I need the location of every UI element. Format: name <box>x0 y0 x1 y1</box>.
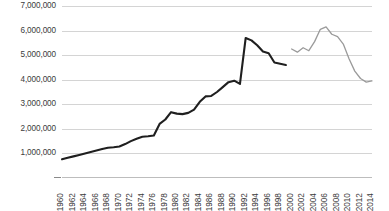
x-tick-label: 2008 <box>333 193 341 211</box>
x-tick-label: 1976 <box>149 193 157 211</box>
y-tick-label: 6,000,000 <box>20 26 56 34</box>
x-tick-label: 2004 <box>310 193 318 211</box>
y-axis: 1,000,0002,000,0003,000,0004,000,0005,00… <box>0 0 62 211</box>
x-tick-label: 1990 <box>229 193 237 211</box>
x-tick-label: 1964 <box>80 193 88 211</box>
x-tick-label: 1980 <box>172 193 180 211</box>
x-tick-label: 2012 <box>356 193 364 211</box>
x-tick-label: 1992 <box>241 193 249 211</box>
line-chart: 1,000,0002,000,0003,000,0004,000,0005,00… <box>0 0 389 211</box>
series-layer <box>62 6 372 178</box>
x-tick-label: 1978 <box>160 193 168 211</box>
y-tick-label: 7,000,000 <box>20 2 56 10</box>
series-1 <box>62 38 286 159</box>
x-tick-label: 1996 <box>264 193 272 211</box>
x-tick-label: 1972 <box>126 193 134 211</box>
y-tick-label: 1,000,000 <box>20 149 56 157</box>
x-tick-label: 1962 <box>68 193 76 211</box>
x-tick-label: 1968 <box>103 193 111 211</box>
series-2 <box>292 27 372 82</box>
x-axis: 1960196219641966196819701972197419761978… <box>62 179 372 211</box>
x-tick-label: 1988 <box>218 193 226 211</box>
x-tick-label: 1960 <box>57 193 65 211</box>
y-tick-label: 5,000,000 <box>20 51 56 59</box>
x-tick-label: 1970 <box>114 193 122 211</box>
x-tick-label: 1986 <box>206 193 214 211</box>
x-tick-label: 1994 <box>252 193 260 211</box>
y-tick-label: 3,000,000 <box>20 100 56 108</box>
x-tick-label: 2010 <box>344 193 352 211</box>
x-tick-label: 1974 <box>137 193 145 211</box>
x-tick-label: 1966 <box>91 193 99 211</box>
y-tick-label: 4,000,000 <box>20 76 56 84</box>
y-tick-label: 2,000,000 <box>20 125 56 133</box>
x-tick-label: 1984 <box>195 193 203 211</box>
x-tick-label: 2014 <box>367 193 375 211</box>
x-tick-label: 2000 <box>287 193 295 211</box>
x-tick-label: 2002 <box>298 193 306 211</box>
x-tick-label: 2006 <box>321 193 329 211</box>
x-tick-label: 1982 <box>183 193 191 211</box>
plot-area <box>62 6 372 178</box>
y-axis-origin-tick <box>54 177 61 178</box>
x-tick-label: 1998 <box>275 193 283 211</box>
